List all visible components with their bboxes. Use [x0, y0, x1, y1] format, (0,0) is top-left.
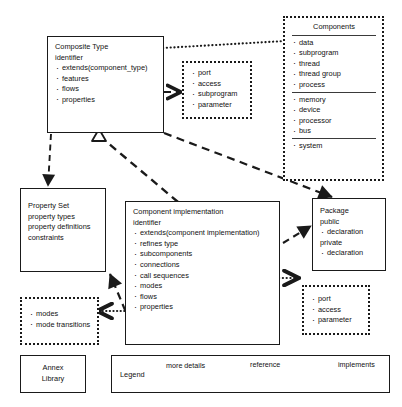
property-set-title: Property Set — [28, 201, 100, 212]
list-item: property definitions — [28, 222, 100, 233]
package-private-label: private — [320, 238, 380, 249]
package-public-list: declaration — [320, 227, 380, 238]
node-component-implementation[interactable]: Component implementation identifier exte… — [125, 201, 280, 345]
list-item: port — [191, 68, 244, 79]
list-item: properties — [133, 302, 273, 313]
modes-item-list: modes mode transitions — [29, 309, 92, 330]
legend-entry-implements-label: implements — [338, 360, 375, 369]
list-item: extends(component implementation) — [133, 228, 273, 239]
components-title-divider — [292, 35, 376, 36]
edge-composite-type-to-property-set — [48, 134, 51, 186]
list-item: access — [191, 79, 244, 90]
composite-type-item-list: extends(component_type) features flows p… — [55, 63, 157, 105]
legend-entry-more-details-label: more details — [166, 361, 205, 370]
list-item: flows — [133, 292, 273, 303]
list-item: system — [292, 141, 376, 152]
list-item: extends(component_type) — [55, 63, 157, 74]
list-item: bus — [292, 126, 376, 137]
component-implementation-title: Component implementation — [133, 207, 273, 218]
component-implementation-item-list: extends(component implementation) refine… — [133, 228, 273, 313]
list-item: subcomponents — [133, 249, 273, 260]
list-item: subprogram — [191, 89, 244, 100]
annex-library-line-1: Annex — [25, 363, 81, 374]
package-public-label: public — [320, 217, 380, 228]
list-item: properties — [55, 95, 157, 106]
connections-detail-item-list: port access parameter — [311, 294, 363, 326]
list-item: access — [311, 305, 363, 316]
list-item: memory — [292, 95, 376, 106]
components-group-1-list: data subprogram thread thread group proc… — [292, 38, 376, 91]
list-item: processor — [292, 116, 376, 127]
property-set-item-list: property types property definitions cons… — [28, 212, 100, 244]
annex-library-line-2: Library — [25, 374, 81, 385]
diagram-canvas: Composite Type identifier extends(compon… — [0, 0, 402, 407]
package-title: Package — [320, 206, 380, 217]
node-property-set[interactable]: Property Set property types property def… — [20, 188, 106, 272]
list-item: parameter — [311, 315, 363, 326]
list-item: connections — [133, 260, 273, 271]
node-annex-library[interactable]: Annex Library — [20, 355, 86, 393]
components-group-divider-1 — [292, 92, 376, 93]
edge-component-implementation-to-package — [283, 226, 311, 243]
composite-type-subtitle: identifier — [55, 53, 157, 64]
node-components[interactable]: Components data subprogram thread thread… — [283, 16, 384, 181]
list-item: thread group — [292, 69, 376, 80]
list-item: property types — [28, 212, 100, 223]
list-item: flows — [55, 84, 157, 95]
list-item: port — [311, 294, 363, 305]
list-item: refines type — [133, 239, 273, 250]
list-item: mode transitions — [29, 320, 92, 331]
features-detail-item-list: port access subprogram parameter — [191, 68, 244, 110]
components-group-3-list: system — [292, 141, 376, 152]
components-title: Components — [292, 22, 376, 33]
list-item: device — [292, 105, 376, 116]
legend-entry-reference-label: reference — [250, 360, 280, 369]
component-implementation-subtitle: identifier — [133, 218, 273, 229]
node-connections-detail[interactable]: port access parameter — [302, 285, 370, 335]
node-modes[interactable]: modes mode transitions — [20, 297, 99, 345]
list-item: thread — [292, 59, 376, 70]
node-package[interactable]: Package public declaration private decla… — [312, 198, 386, 271]
list-item: modes — [133, 281, 273, 292]
composite-type-title: Composite Type — [55, 42, 157, 53]
list-item: call sequences — [133, 271, 273, 282]
list-item: features — [55, 74, 157, 85]
list-item: process — [292, 80, 376, 91]
node-composite-type[interactable]: Composite Type identifier extends(compon… — [47, 36, 164, 133]
package-private-list: declaration — [320, 248, 380, 259]
list-item: constraints — [28, 233, 100, 244]
legend-title: Legend — [120, 370, 145, 379]
list-item: data — [292, 38, 376, 49]
components-group-2-list: memory device processor bus — [292, 95, 376, 137]
list-item: modes — [29, 309, 92, 320]
list-item: parameter — [191, 100, 244, 111]
node-features-detail[interactable]: port access subprogram parameter — [182, 61, 252, 119]
list-item: declaration — [320, 248, 380, 259]
list-item: declaration — [320, 227, 380, 238]
list-item: subprogram — [292, 48, 376, 59]
components-group-divider-2 — [292, 138, 376, 139]
